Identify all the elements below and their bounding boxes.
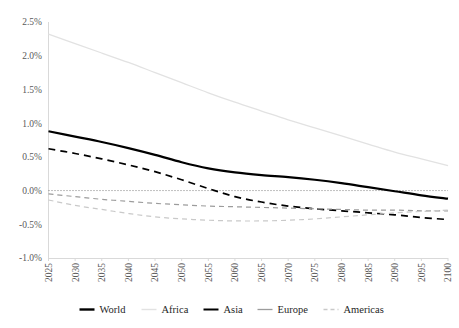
- x-tick-label: 2070: [284, 263, 294, 282]
- series-line-americas: [49, 200, 449, 221]
- x-tick-label: 2050: [177, 263, 187, 282]
- x-tick-label: 2025: [44, 263, 54, 282]
- legend-label-world: World: [100, 304, 127, 315]
- x-tick-label: 2085: [364, 263, 374, 282]
- y-tick-label: 2.5%: [22, 17, 42, 27]
- chart-legend: WorldAfricaAsiaEuropeAmericas: [80, 304, 384, 315]
- y-tick-label: 0.5%: [22, 152, 42, 162]
- series-group: [49, 34, 449, 221]
- x-tick-label: 2060: [230, 263, 240, 282]
- legend-label-africa: Africa: [162, 304, 189, 315]
- series-line-asia: [49, 149, 449, 220]
- x-axis-tick-labels: 2025203020352040204520502055206020652070…: [44, 263, 454, 282]
- legend-label-europe: Europe: [278, 304, 309, 315]
- y-tick-label: 1.5%: [22, 85, 42, 95]
- y-tick-label: 2.0%: [22, 51, 42, 61]
- chart-canvas: -1.0%-0.5%0.0%0.5%1.0%1.5%2.0%2.5% 20252…: [0, 0, 459, 328]
- x-tick-label: 2090: [390, 263, 400, 282]
- x-tick-label: 2045: [150, 263, 160, 282]
- x-tick-label: 2080: [337, 263, 347, 282]
- series-line-africa: [49, 34, 449, 165]
- x-tick-label: 2040: [124, 263, 134, 282]
- legend-label-americas: Americas: [344, 304, 384, 315]
- x-tick-label: 2055: [204, 263, 214, 282]
- series-line-world: [49, 131, 449, 198]
- x-tick-label: 2095: [417, 263, 427, 282]
- y-tick-label: 0.0%: [22, 186, 42, 196]
- series-line-europe: [49, 194, 449, 211]
- y-tick-label: -0.5%: [19, 220, 42, 230]
- x-tick-label: 2030: [71, 263, 81, 282]
- y-tick-label: 1.0%: [22, 119, 42, 129]
- x-tick-label: 2075: [310, 263, 320, 282]
- legend-label-asia: Asia: [224, 304, 244, 315]
- y-axis-tick-labels: -1.0%-0.5%0.0%0.5%1.0%1.5%2.0%2.5%: [19, 17, 42, 263]
- x-tick-label: 2035: [97, 263, 107, 282]
- x-tick-label: 2065: [257, 263, 267, 282]
- x-tick-label: 2100: [443, 263, 453, 282]
- y-tick-label: -1.0%: [19, 253, 42, 263]
- growth-rate-line-chart: -1.0%-0.5%0.0%0.5%1.0%1.5%2.0%2.5% 20252…: [0, 0, 459, 328]
